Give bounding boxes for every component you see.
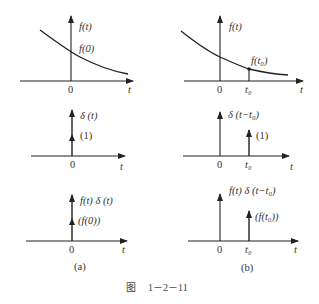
t0-tick-label: t₀	[245, 244, 252, 255]
xlabel: t	[290, 161, 294, 172]
origin-label: 0	[68, 84, 73, 95]
plot-a-product: f(t) δ (t) (f(0)) 0 t	[26, 195, 127, 255]
panel-b: f(t) f(t₀) 0 t₀ t δ (t−t₀) (1) 0 t₀ t f(…	[181, 16, 304, 274]
sample-label: f(t₀)	[251, 55, 268, 67]
figure-1-2-11: f(t) f(0) 0 t δ (t) (1) 0 t f(t) δ (t) (…	[0, 0, 319, 304]
xlabel: t	[120, 161, 124, 172]
ylabel: f(t)	[229, 21, 242, 33]
figure-caption: 图 1－2－11	[126, 282, 188, 293]
t0-tick-label: t₀	[245, 159, 252, 170]
panel-a: f(t) f(0) 0 t δ (t) (1) 0 t f(t) δ (t) (…	[20, 16, 133, 273]
xlabel: t	[294, 244, 298, 255]
origin-label: 0	[69, 244, 74, 255]
panel-label-b: (b)	[241, 262, 254, 274]
t0-tick-label: t₀	[245, 84, 252, 95]
origin-label: 0	[217, 244, 222, 255]
impulse-mid-arrowhead	[69, 134, 75, 141]
sample-point	[247, 67, 251, 71]
strength-label: (1)	[80, 130, 93, 142]
decaying-curve	[181, 31, 288, 75]
ylabel: f(t) δ (t−t₀)	[229, 185, 276, 197]
plot-b-product: f(t) δ (t−t₀) (f(t₀)) 0 t₀ t	[188, 185, 298, 255]
plot-b-signal: f(t) f(t₀) 0 t₀ t	[181, 16, 304, 95]
xlabel: t	[300, 84, 304, 95]
plot-a-signal: f(t) f(0) 0 t	[20, 16, 133, 95]
ylabel: f(t)	[79, 21, 92, 33]
ylabel: δ (t)	[80, 110, 98, 122]
strength-label: (1)	[256, 130, 269, 142]
plot-a-impulse: δ (t) (1) 0 t	[31, 110, 125, 172]
caption-number: 1－2－11	[148, 282, 188, 293]
intercept-label: f(0)	[79, 43, 95, 55]
origin-label: 0	[70, 159, 75, 170]
strength-label: (f(t₀))	[255, 211, 279, 223]
ylabel: δ (t−t₀)	[228, 109, 260, 121]
origin-label: 0	[217, 159, 222, 170]
plot-b-shifted-impulse: δ (t−t₀) (1) 0 t₀ t	[183, 109, 294, 172]
xlabel: t	[128, 84, 132, 95]
caption-prefix: 图	[126, 282, 136, 293]
impulse-mid-arrowhead	[69, 218, 75, 225]
panel-label-a: (a)	[74, 261, 86, 273]
strength-label: (f(0))	[78, 215, 101, 227]
origin-label: 0	[217, 84, 222, 95]
ylabel: f(t) δ (t)	[80, 195, 113, 207]
xlabel: t	[122, 244, 126, 255]
